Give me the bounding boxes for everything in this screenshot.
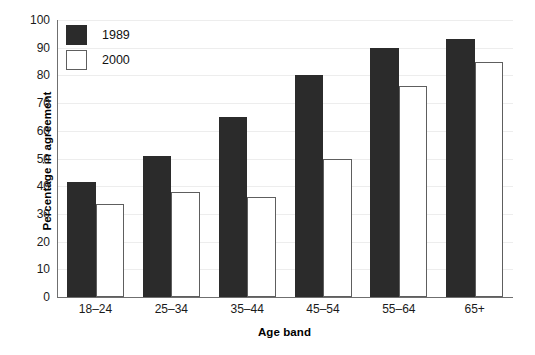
y-axis-tick-label: 30 <box>6 207 50 221</box>
x-axis-tick-label: 65+ <box>464 302 484 316</box>
x-axis-tick-label: 55–64 <box>382 302 415 316</box>
x-axis-tick-labels: 18–2425–3435–4445–5455–6465+ <box>57 302 512 322</box>
bar-2000-65+ <box>475 62 504 297</box>
bar-1989-45–54 <box>295 75 324 297</box>
x-axis-tick-label: 18–24 <box>79 302 112 316</box>
chart-legend: 19892000 <box>66 22 196 72</box>
bar-1989-18–24 <box>67 182 96 297</box>
x-axis-tick-label: 25–34 <box>155 302 188 316</box>
x-axis-tick-label: 45–54 <box>306 302 339 316</box>
bar-group <box>295 20 352 297</box>
legend-item-1989: 1989 <box>66 22 196 47</box>
bar-1989-65+ <box>446 39 475 297</box>
bar-2000-18–24 <box>96 204 125 297</box>
y-axis-tick-label: 90 <box>6 41 50 55</box>
bar-group <box>446 20 503 297</box>
bar-2000-25–34 <box>171 192 200 297</box>
legend-label: 2000 <box>102 53 130 67</box>
y-axis-tick-label: 10 <box>6 262 50 276</box>
legend-label: 1989 <box>102 28 130 42</box>
x-axis-title: Age band <box>57 326 512 338</box>
bar-2000-35–44 <box>247 197 276 297</box>
bar-1989-35–44 <box>219 117 248 297</box>
y-axis-tick-label: 0 <box>6 290 50 304</box>
y-axis-tick-label: 50 <box>6 152 50 166</box>
x-axis-tick-label: 35–44 <box>230 302 263 316</box>
y-axis-tick-label: 80 <box>6 68 50 82</box>
bar-2000-45–54 <box>323 159 352 298</box>
bar-1989-55–64 <box>370 48 399 297</box>
bar-group <box>370 20 427 297</box>
y-axis-tick-labels: 1009080706050403020100 <box>0 20 50 297</box>
legend-swatch-icon <box>66 50 87 70</box>
y-axis-tick-label: 20 <box>6 235 50 249</box>
legend-item-2000: 2000 <box>66 47 196 72</box>
y-axis-tick-label: 60 <box>6 124 50 138</box>
bar-1989-25–34 <box>143 156 172 297</box>
legend-swatch-icon <box>66 25 87 45</box>
bar-group <box>219 20 276 297</box>
y-axis-tick-label: 70 <box>6 96 50 110</box>
y-axis-tick-label: 40 <box>6 179 50 193</box>
y-axis-tick-label: 100 <box>6 13 50 27</box>
bar-2000-55–64 <box>399 86 428 297</box>
bar-chart: Percentage in agreement 1009080706050403… <box>0 0 535 355</box>
